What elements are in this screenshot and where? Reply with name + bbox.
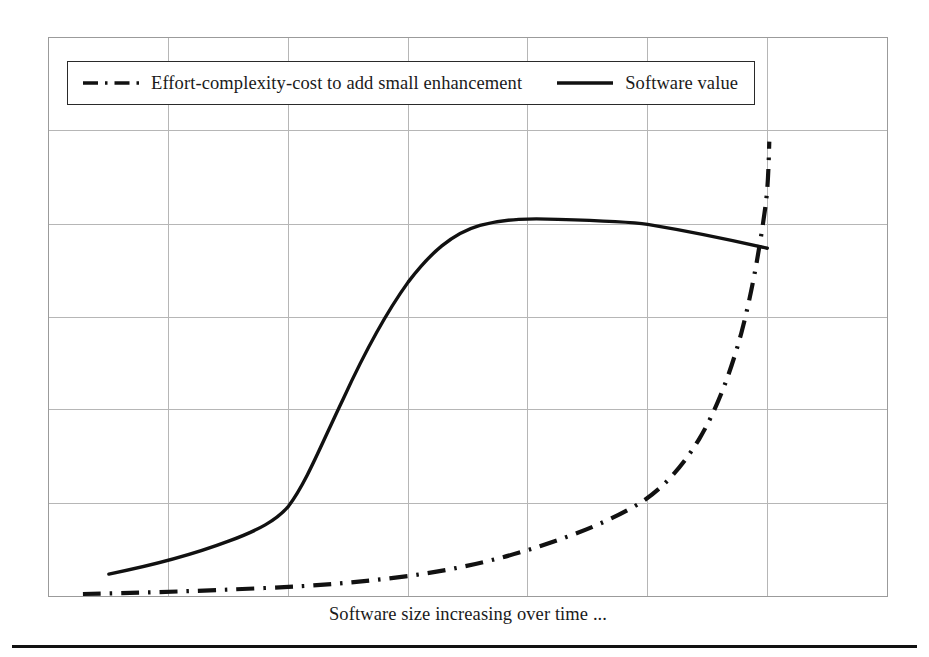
legend-label-effort-complexity-cost: Effort-complexity-cost to add small enha… xyxy=(151,74,522,93)
page-bottom-rule xyxy=(12,645,917,648)
chart-series-layer xyxy=(49,38,887,596)
legend-entry-software-value: Software value xyxy=(556,74,738,93)
legend-entry-effort-complexity-cost: Effort-complexity-cost to add small enha… xyxy=(82,74,522,93)
plot-area: Effort-complexity-cost to add small enha… xyxy=(48,37,888,597)
solid-line-sample-icon xyxy=(556,76,614,90)
dash-dot-sample-icon xyxy=(82,76,140,90)
chart-legend: Effort-complexity-cost to add small enha… xyxy=(67,61,755,105)
chart-figure: Effort-complexity-cost to add small enha… xyxy=(0,0,929,657)
series-effort-complexity-cost xyxy=(83,142,769,594)
series-software-value xyxy=(109,219,767,574)
legend-label-software-value: Software value xyxy=(625,74,738,93)
x-axis-label: Software size increasing over time ... xyxy=(48,604,888,625)
